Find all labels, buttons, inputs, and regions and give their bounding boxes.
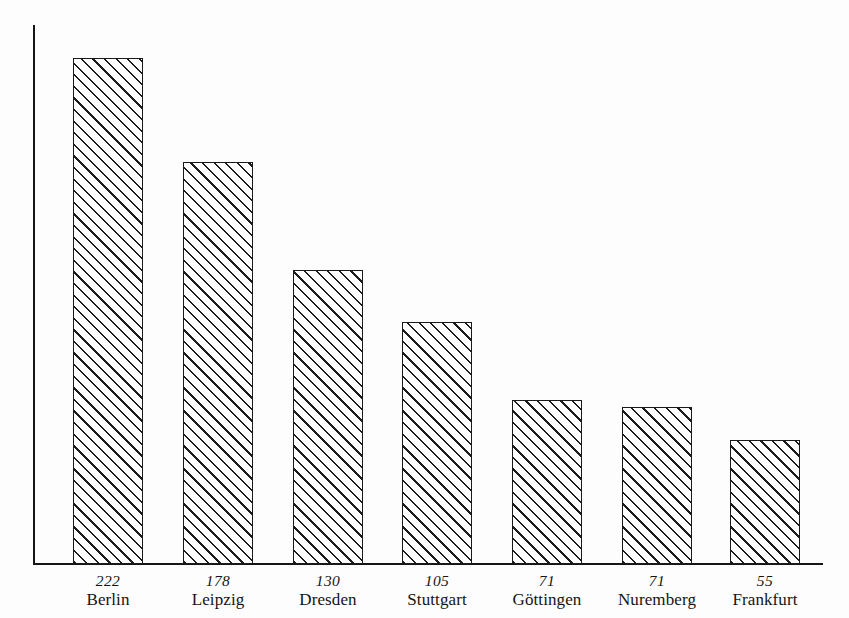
x-axis-tick-group: 55Frankfurt [685,573,845,609]
bar [622,407,692,564]
bar [730,440,800,564]
plot-area: 222Berlin178Leipzig130Dresden105Stuttgar… [0,0,849,618]
bar [402,322,472,564]
bar [183,162,253,564]
bar [73,58,143,564]
bar [293,270,363,564]
bar-chart-figure: 222Berlin178Leipzig130Dresden105Stuttgar… [0,0,849,618]
bar [512,400,582,564]
bar-category-label: Frankfurt [685,591,845,609]
bar-value-label: 55 [685,573,845,590]
